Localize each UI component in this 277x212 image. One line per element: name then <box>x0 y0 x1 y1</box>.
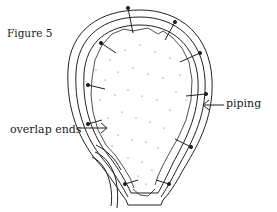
overlap-ends-label: overlap ends <box>10 124 82 135</box>
figure-title: Figure 5 <box>7 28 52 39</box>
piping-arrow-icon <box>203 100 224 110</box>
middle-piping-line <box>76 17 205 197</box>
raw-edge-line <box>91 28 192 188</box>
overlap-ends-arrow-icon <box>78 123 107 133</box>
pin-icon <box>86 83 105 89</box>
overlap-strand-2 <box>92 157 112 206</box>
inner-seam-line <box>84 25 198 193</box>
pin-icon <box>86 120 102 126</box>
pin-icon <box>123 180 138 186</box>
pin-icon <box>99 41 116 53</box>
bottom-corner <box>126 200 163 205</box>
overlap-strand-1 <box>95 152 118 208</box>
figure-canvas: Figure 5 piping overlap ends <box>0 0 277 212</box>
piping-label: piping <box>226 98 261 109</box>
